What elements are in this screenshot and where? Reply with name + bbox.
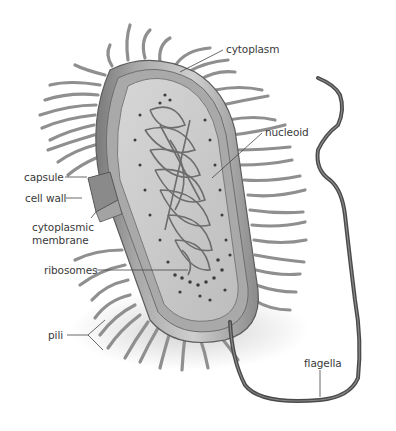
label-cytoplasm: cytoplasm	[226, 43, 279, 55]
label-nucleoid: nucleoid	[265, 126, 309, 138]
label-cytoplasmic-membrane-line1: cytoplasmic	[32, 221, 94, 233]
leader-cytoplasmic-membrane	[91, 212, 96, 218]
bacterial-cell-diagram: cytoplasm nucleoid capsule cell wall cyt…	[0, 0, 396, 431]
label-ribosomes: ribosomes	[44, 264, 97, 276]
label-flagella: flagella	[304, 357, 342, 369]
label-cell-wall: cell wall	[25, 192, 66, 204]
label-capsule: capsule	[24, 171, 64, 183]
label-pili: pili	[48, 329, 63, 341]
label-cytoplasmic-membrane-line2: membrane	[32, 234, 89, 246]
